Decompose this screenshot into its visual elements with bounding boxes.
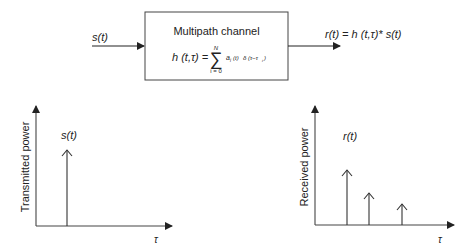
channel-block-diagram: s(t) Multipath channel h (t,τ) = ∑ N i =…	[92, 12, 402, 80]
x-axis-label: τ	[154, 234, 159, 245]
received-power-plot: Received power τ r(t)	[298, 106, 454, 245]
term-delta: δ (τ−τ	[243, 55, 259, 61]
y-axis-label: Transmitted power	[19, 121, 31, 212]
term-delta-sub: i	[262, 58, 263, 63]
multipath-diagram: s(t) Multipath channel h (t,τ) = ∑ N i =…	[0, 0, 472, 250]
term-close: )	[263, 55, 266, 61]
signal-label: s(t)	[61, 129, 77, 141]
output-signal-label: r(t) = h (t,τ)* s(t)	[325, 28, 402, 40]
impulse-arrow-3	[397, 204, 407, 225]
sum-symbol: ∑	[210, 49, 223, 69]
transmitted-power-plot: Transmitted power τ s(t)	[19, 106, 172, 245]
formula-lhs: h (t,τ) =	[172, 51, 209, 63]
impulse-arrow-1	[342, 170, 352, 225]
input-signal-label: s(t)	[92, 31, 108, 43]
sum-lower-limit: i = 0	[210, 68, 222, 74]
impulse-arrow	[62, 150, 72, 226]
impulse-arrow-2	[364, 193, 374, 225]
term-t: (t)	[233, 55, 239, 61]
y-axis-label: Received power	[298, 127, 310, 206]
signal-label: r(t)	[343, 130, 357, 142]
sum-upper-limit: N	[214, 45, 219, 51]
x-axis-label: τ	[438, 234, 443, 245]
channel-title: Multipath channel	[173, 25, 259, 37]
